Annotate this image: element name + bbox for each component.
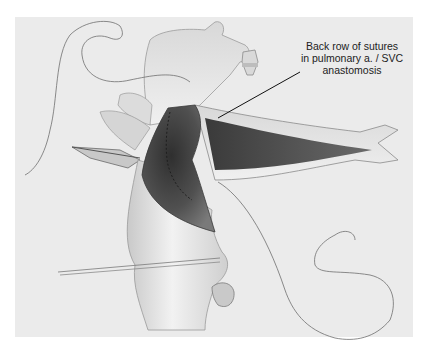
left-branches (72, 93, 152, 168)
surgical-illustration: Back row of sutures in pulmonary a. / SV… (0, 0, 428, 347)
suture-annotation: Back row of sutures in pulmonary a. / SV… (292, 40, 412, 76)
annotation-line-1: Back row of sutures (292, 40, 412, 52)
pulmonary-artery (195, 105, 398, 180)
annotation-line-2: in pulmonary a. / SVC (292, 52, 412, 64)
annotation-leader-line (218, 72, 300, 118)
annotation-line-3: anastomosis (292, 64, 412, 76)
